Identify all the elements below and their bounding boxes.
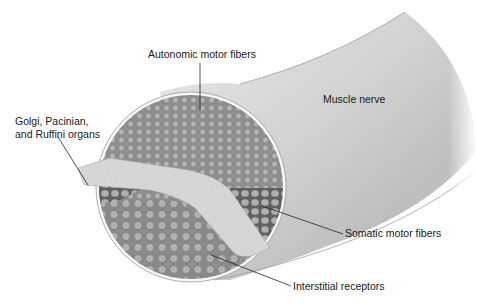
label-golgi-line2: and Ruffini organs [15,128,100,141]
muscle-nerve-diagram [0,0,477,307]
label-muscle-nerve: Muscle nerve [323,93,385,106]
label-somatic-motor-fibers: Somatic motor fibers [345,227,441,240]
label-autonomic-motor-fibers: Autonomic motor fibers [148,48,256,61]
leader-golgi [58,137,88,185]
label-golgi-line1: Golgi, Pacinian, [15,115,89,128]
label-interstitial-receptors: Interstitial receptors [293,280,385,293]
